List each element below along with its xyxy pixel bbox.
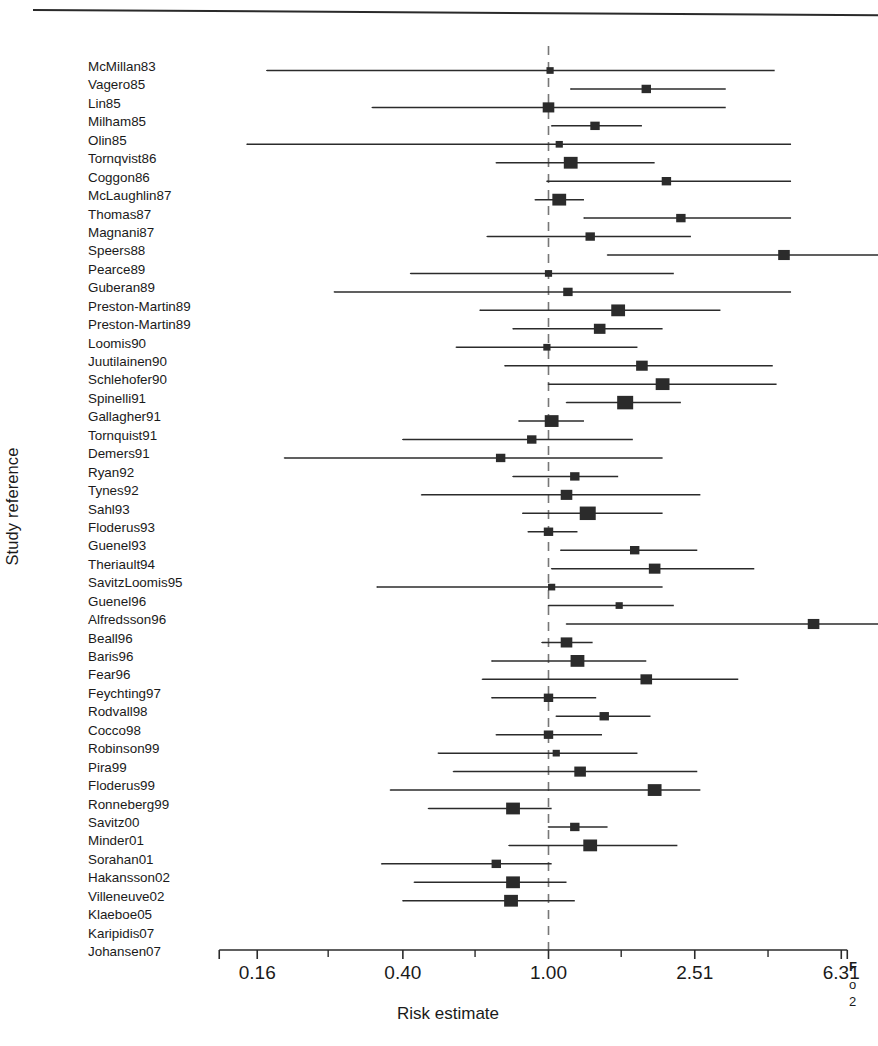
estimate-marker	[564, 157, 578, 169]
estimate-marker	[545, 415, 559, 427]
figure-caption-cropped: F o 2	[849, 958, 878, 1020]
x-axis-tick-label: 1.00	[530, 962, 567, 984]
study-label: Lin85	[88, 95, 218, 113]
study-label: Feychting97	[88, 685, 218, 703]
study-label: Loomis90	[88, 335, 218, 353]
estimate-marker	[642, 85, 651, 93]
estimate-marker	[778, 250, 790, 260]
study-label: Tynes92	[88, 482, 218, 500]
estimate-marker	[648, 784, 662, 796]
study-label: Preston-Martin89	[88, 316, 218, 334]
forest-plot-canvas	[218, 58, 878, 948]
plot-area	[218, 58, 878, 948]
study-label: Gallagher91	[88, 408, 218, 426]
estimate-marker	[561, 637, 573, 647]
estimate-marker	[496, 454, 505, 462]
study-label: Olin85	[88, 132, 218, 150]
study-label: Guenel96	[88, 593, 218, 611]
estimate-marker	[594, 324, 606, 334]
x-axis-tick-label: 2.51	[676, 962, 713, 984]
estimate-marker	[676, 214, 685, 222]
estimate-marker	[630, 546, 639, 554]
study-label: Pearce89	[88, 261, 218, 279]
study-label: Floderus99	[88, 777, 218, 795]
study-label: Floderus93	[88, 519, 218, 537]
study-label: Alfredsson96	[88, 611, 218, 629]
study-label: Tornqvist86	[88, 150, 218, 168]
study-label: Schlehofer90	[88, 371, 218, 389]
estimate-marker	[611, 304, 625, 316]
estimate-marker	[553, 750, 560, 757]
estimate-marker	[808, 619, 820, 629]
estimate-marker	[492, 860, 501, 868]
study-label: SavitzLoomis95	[88, 574, 218, 592]
estimate-marker	[585, 232, 594, 240]
estimate-marker	[504, 895, 518, 907]
study-label: Guenel93	[88, 537, 218, 555]
estimate-marker	[574, 767, 586, 777]
study-label: Pira99	[88, 759, 218, 777]
study-label: Coggon86	[88, 169, 218, 187]
estimate-marker	[580, 507, 596, 521]
study-label: Rodvall98	[88, 703, 218, 721]
study-label: McLaughlin87	[88, 187, 218, 205]
estimate-marker	[571, 655, 585, 667]
study-label: Guberan89	[88, 279, 218, 297]
study-label-column: McMillan83Vagero85Lin85Milham85Olin85Tor…	[88, 58, 218, 961]
study-label: Cocco98	[88, 722, 218, 740]
study-label: Robinson99	[88, 740, 218, 758]
x-axis-tick-labels: 0.160.401.002.516.31	[218, 962, 878, 992]
study-label: Ronneberg99	[88, 796, 218, 814]
study-label: Johansen07	[88, 943, 218, 961]
study-label: Juutilainen90	[88, 353, 218, 371]
study-label: Speers88	[88, 242, 218, 260]
estimate-marker	[552, 194, 566, 206]
study-label: Sorahan01	[88, 851, 218, 869]
estimate-marker	[617, 396, 633, 410]
estimate-marker	[649, 564, 661, 574]
study-label: Demers91	[88, 445, 218, 463]
study-label: Klaeboe05	[88, 906, 218, 924]
estimate-marker	[544, 694, 553, 702]
x-axis-tick-label: 0.40	[384, 962, 421, 984]
caption-line-3: 2	[849, 993, 878, 1011]
estimate-marker	[590, 122, 599, 130]
estimate-marker	[636, 361, 648, 371]
estimate-marker	[556, 141, 563, 148]
study-label: Villeneuve02	[88, 888, 218, 906]
study-label: Vagero85	[88, 76, 218, 94]
estimate-marker	[616, 602, 623, 609]
estimate-marker	[662, 177, 671, 185]
study-label: Ryan92	[88, 464, 218, 482]
estimate-marker	[563, 288, 572, 296]
y-axis-title-text: Study reference	[3, 357, 22, 657]
study-label: Hakansson02	[88, 869, 218, 887]
x-axis-title: Risk estimate	[218, 1004, 678, 1024]
estimate-marker	[506, 876, 520, 888]
study-label: Savitz00	[88, 814, 218, 832]
estimate-marker	[544, 528, 553, 536]
study-label: Milham85	[88, 113, 218, 131]
estimate-marker	[543, 344, 550, 351]
estimate-marker	[583, 840, 597, 852]
estimate-marker	[640, 674, 652, 684]
study-label: Magnani87	[88, 224, 218, 242]
study-label: Tornquist91	[88, 427, 218, 445]
caption-line-1: F	[849, 958, 878, 976]
caption-line-2: o	[849, 976, 878, 994]
forest-plot-figure: Study reference McMillan83Vagero85Lin85M…	[0, 0, 878, 1046]
estimate-marker	[544, 731, 553, 739]
y-axis-title: Study reference	[0, 0, 30, 1046]
study-label: Fear96	[88, 666, 218, 684]
estimate-marker	[527, 435, 536, 443]
estimate-marker	[656, 378, 670, 390]
estimate-marker	[506, 803, 520, 815]
study-label: Spinelli91	[88, 390, 218, 408]
study-label: Sahl93	[88, 501, 218, 519]
study-label: McMillan83	[88, 58, 218, 76]
estimate-marker	[561, 490, 573, 500]
estimate-marker	[600, 712, 609, 720]
estimate-marker	[570, 472, 579, 480]
study-label: Theriault94	[88, 556, 218, 574]
study-label: Karipidis07	[88, 925, 218, 943]
